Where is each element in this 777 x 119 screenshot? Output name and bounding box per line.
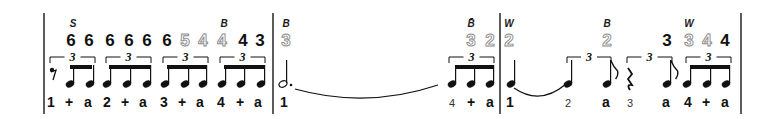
- hand-label: B: [220, 18, 227, 29]
- tuplet-number: 3: [646, 50, 653, 64]
- count-syllable: a: [486, 94, 494, 110]
- tuplet-number: 3: [705, 50, 712, 64]
- sticking-number: 6: [105, 31, 114, 50]
- count-syllable: +: [236, 94, 244, 110]
- hand-label: B: [603, 18, 610, 29]
- sticking-number: 4: [217, 31, 227, 50]
- count-syllable: 3: [627, 97, 633, 109]
- count-syllable: 1: [280, 94, 288, 110]
- count-syllable: a: [139, 94, 147, 110]
- tie-curve: [514, 84, 566, 96]
- tuplet-number: 3: [468, 50, 475, 64]
- tuplet-number: 3: [125, 50, 132, 64]
- sticking-number: 2: [485, 31, 494, 50]
- tie-curve: [295, 85, 438, 98]
- tuplet-number: 3: [239, 50, 246, 64]
- hand-label: B: [282, 18, 289, 29]
- sticking-number: 6: [162, 31, 171, 50]
- count-syllable: 4: [684, 94, 692, 110]
- count-syllable: +: [178, 94, 186, 110]
- sticking-number: 4: [702, 31, 712, 50]
- hand-label: W: [684, 18, 695, 29]
- sticking-number: 3: [281, 31, 290, 50]
- tuplet-number: 3: [182, 50, 189, 64]
- sticking-number: 6: [66, 31, 75, 50]
- sticking-number: 6: [142, 31, 151, 50]
- beam: [109, 65, 150, 69]
- sticking-number: 3: [255, 31, 264, 50]
- eighth-flag-icon: [671, 60, 678, 79]
- tuplet-number: 3: [585, 50, 592, 64]
- count-syllable: +: [65, 94, 73, 110]
- sticking-number: 6: [84, 31, 93, 50]
- count-syllable: 4: [449, 97, 455, 109]
- count-syllable: a: [721, 94, 729, 110]
- count-syllable: a: [602, 94, 610, 110]
- count-syllable: 4: [217, 94, 225, 110]
- beam: [690, 65, 729, 69]
- count-syllable: a: [196, 94, 204, 110]
- hand-label: S: [70, 18, 77, 29]
- sticking-number: 3: [684, 31, 693, 50]
- sticking-number: 2: [602, 31, 611, 50]
- rhythm-notation-score: SB6666665444333331+a2+a3+a4+aBB̄332314+a…: [0, 0, 777, 119]
- sticking-number: 4: [198, 31, 208, 50]
- count-syllable: +: [121, 94, 129, 110]
- count-syllable: +: [702, 94, 710, 110]
- sticking-number: 5: [180, 31, 189, 50]
- augmentation-dot: [290, 84, 293, 87]
- sticking-number: 3: [662, 31, 671, 50]
- sticking-number: 2: [504, 31, 513, 50]
- sticking-number: 3: [466, 31, 475, 50]
- count-syllable: a: [84, 94, 92, 110]
- count-syllable: +: [467, 94, 475, 110]
- count-syllable: 1: [506, 94, 514, 110]
- hand-label: W: [504, 18, 515, 29]
- sticking-number: 4: [720, 31, 730, 50]
- eighth-flag-icon: [611, 60, 618, 79]
- sticking-number: 4: [238, 31, 248, 50]
- count-syllable: a: [254, 94, 262, 110]
- count-syllable: 3: [160, 94, 168, 110]
- count-syllable: 2: [565, 97, 571, 109]
- hand-label: B̄: [467, 18, 474, 29]
- sticking-number: 6: [124, 31, 133, 50]
- count-syllable: a: [662, 94, 670, 110]
- eighth-rest-icon: [51, 70, 56, 80]
- count-syllable: 2: [103, 94, 111, 110]
- quarter-rest-icon: [628, 68, 632, 90]
- count-syllable: 1: [47, 94, 55, 110]
- tuplet-number: 3: [69, 50, 76, 64]
- beam: [167, 65, 206, 69]
